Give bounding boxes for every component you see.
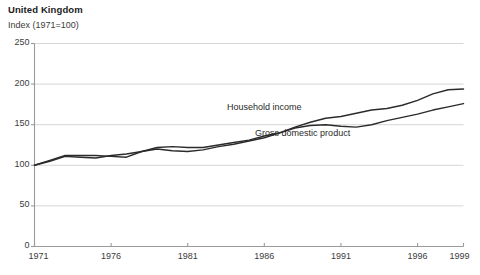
y-tick-label-100: 100 — [4, 159, 30, 169]
x-tick-label-1976: 1976 — [91, 251, 131, 261]
x-tick-label-1981: 1981 — [168, 251, 208, 261]
x-tick-label-1999: 1999 — [430, 251, 470, 261]
y-tick-label-150: 150 — [4, 118, 30, 128]
series-label-gross-domestic-product: Gross domestic product — [255, 128, 350, 138]
x-tick-label-1971: 1971 — [29, 251, 69, 261]
plot-area — [0, 0, 480, 275]
y-tick-label-200: 200 — [4, 78, 30, 88]
x-tick-label-1986: 1986 — [244, 251, 284, 261]
y-tick-label-0: 0 — [4, 240, 30, 250]
chart-figure: United Kingdom Index (1971=100) 05010015… — [0, 0, 480, 275]
series-line-household-income — [35, 89, 464, 165]
gridlines — [35, 44, 464, 206]
series-label-household-income: Household income — [227, 102, 302, 112]
x-tick-label-1991: 1991 — [321, 251, 361, 261]
y-tick-label-50: 50 — [4, 199, 30, 209]
axis-lines — [31, 44, 464, 247]
y-tick-label-250: 250 — [4, 37, 30, 47]
